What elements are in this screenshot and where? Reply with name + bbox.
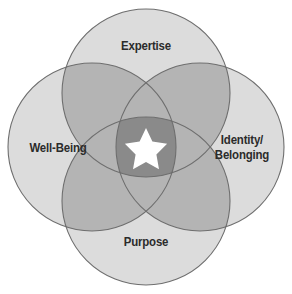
venn-label-purpose: Purpose <box>18 234 275 249</box>
venn-label-well-being: Well-Being <box>12 140 104 155</box>
venn-label-expertise: Expertise <box>18 38 275 53</box>
venn-diagram: Expertise Well-Being Identity/ Belonging… <box>0 0 292 294</box>
venn-label-identity-belonging: Identity/ Belonging <box>200 132 284 162</box>
